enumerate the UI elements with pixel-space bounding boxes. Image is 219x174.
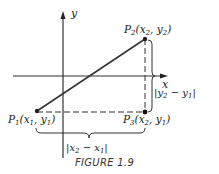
coord-y-subscript: 1 [47, 119, 51, 127]
vertical-distance-label: |y2 − y1| [154, 88, 196, 100]
coord-x-subscript: 1 [30, 119, 34, 127]
coord-y-subscript: 2 [163, 29, 167, 37]
var-a-subscript: 2 [75, 147, 79, 155]
horizontal-distance-label: |x2 − x1| [66, 143, 108, 155]
point-p1-label: P1(x1, y1) [8, 114, 55, 127]
horizontal-distance-brace [36, 128, 145, 138]
point-subscript: 2 [131, 29, 135, 37]
var-b-subscript: 1 [188, 92, 192, 100]
coord-y-subscript: 1 [162, 119, 166, 127]
point-p3-label: P3(x2, y1) [123, 114, 170, 127]
y-axis-label: y [71, 8, 77, 19]
var-a-subscript: 2 [163, 92, 167, 100]
figure-caption: FIGURE 1.9 [75, 158, 134, 168]
distance-formula-figure: y x P2(x2, y2) P1(x1, y1) P3(x2, y1) |y2… [0, 0, 219, 174]
point-subscript: 3 [130, 119, 134, 127]
point-p2 [143, 37, 147, 41]
coord-x-subscript: 2 [146, 29, 150, 37]
segment-p1-p2 [37, 39, 145, 111]
coord-x-subscript: 2 [145, 119, 149, 127]
point-subscript: 1 [15, 119, 19, 127]
point-p2-label: P2(x2, y2) [124, 24, 171, 37]
y-axis-arrow-icon [61, 11, 66, 19]
var-b-subscript: 1 [100, 147, 104, 155]
